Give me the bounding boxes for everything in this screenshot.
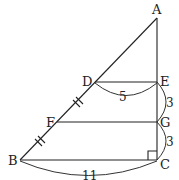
measure-BC: 11 — [82, 169, 97, 180]
label-G: G — [160, 115, 170, 130]
tick-marks-DF — [73, 97, 83, 107]
geometry-diagram: A D E F G B C 5 3 3 11 — [0, 0, 179, 180]
label-C: C — [160, 157, 170, 172]
label-E: E — [160, 74, 170, 89]
measure-EG: 3 — [166, 96, 174, 110]
label-B: B — [8, 153, 18, 168]
tick-marks-FB — [35, 136, 45, 146]
measure-DE: 5 — [119, 90, 127, 104]
right-angle-marker — [148, 151, 157, 160]
label-A: A — [151, 2, 162, 17]
measure-GC: 3 — [166, 135, 174, 149]
label-D: D — [82, 74, 92, 89]
label-F: F — [46, 115, 55, 130]
